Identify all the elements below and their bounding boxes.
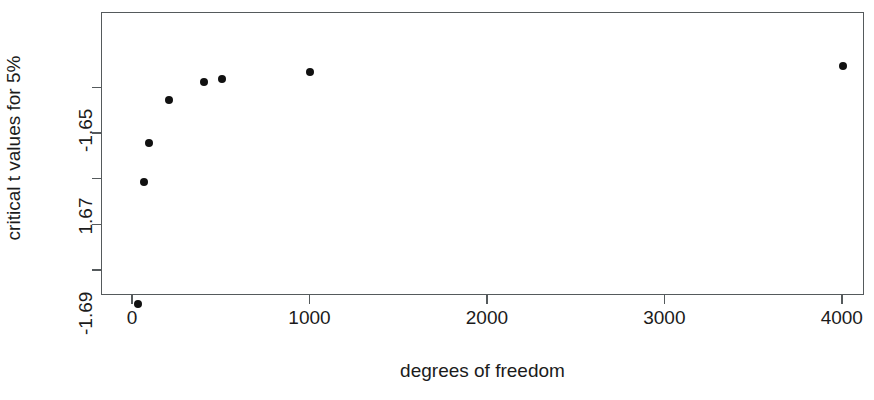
x-axis-tick-label: 3000 xyxy=(643,307,685,329)
x-axis-tick xyxy=(486,295,487,304)
y-axis-tick-label: -1.65 xyxy=(75,109,97,152)
x-axis-tick xyxy=(664,295,665,304)
y-axis-tick xyxy=(92,269,101,270)
x-axis-tick-label: 2000 xyxy=(466,307,508,329)
x-axis-tick-label: 0 xyxy=(127,307,138,329)
y-axis-title-text: critical t values for 5% xyxy=(3,55,25,240)
data-point xyxy=(140,178,148,186)
plot-area xyxy=(101,12,864,295)
scatter-plot-figure: critical t values for 5% -1.651.67-1.69 … xyxy=(0,0,874,400)
data-point xyxy=(200,78,208,86)
x-axis-tick-label: 1000 xyxy=(288,307,330,329)
data-point xyxy=(145,139,153,147)
y-axis-tick-label: -1.69 xyxy=(75,292,97,335)
y-axis-tick xyxy=(92,178,101,179)
x-axis-tick xyxy=(131,295,132,304)
x-axis-tick-label: 4000 xyxy=(821,307,863,329)
data-point xyxy=(839,62,847,70)
data-point xyxy=(165,96,173,104)
x-axis-title: degrees of freedom xyxy=(101,360,864,382)
y-axis-tick xyxy=(92,224,101,225)
y-axis-tick-label: 1.67 xyxy=(75,197,97,234)
y-axis-title: critical t values for 5% xyxy=(0,0,28,295)
x-axis-tick xyxy=(309,295,310,304)
x-axis-tick xyxy=(841,295,842,304)
y-axis-tick xyxy=(92,132,101,133)
data-point xyxy=(218,75,226,83)
data-point xyxy=(306,68,314,76)
y-axis-tick xyxy=(92,87,101,88)
